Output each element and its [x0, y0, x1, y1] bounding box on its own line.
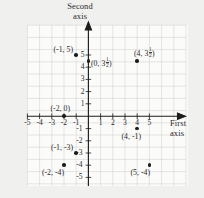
point-label: (-1, -3) — [51, 143, 73, 151]
point-label-tail: ) — [109, 58, 112, 67]
point-label: (5, -4) — [131, 169, 151, 177]
y-tick-label-3: 3 — [75, 75, 85, 83]
data-point — [62, 114, 66, 118]
x-tick-label-5: 5 — [142, 119, 156, 127]
y-tick-label--1: -1 — [73, 125, 83, 133]
y-tick-label-2: 2 — [75, 88, 85, 96]
y-tick-label-1: 1 — [75, 100, 85, 108]
point-label-text: (0, 3 — [91, 58, 105, 67]
coordinate-plane-figure: Second axis First axis -5 -4 -3 -2 -1 1 … — [0, 0, 204, 198]
data-point — [87, 59, 91, 63]
second-axis-title: Second axis — [52, 2, 108, 21]
grid-and-axes-layer — [0, 0, 204, 198]
point-label: (-2, -4) — [42, 169, 64, 177]
point-label: (4, 312) — [134, 47, 155, 59]
point-label: (-1, 5) — [54, 45, 74, 53]
data-point — [74, 151, 78, 155]
point-label-tail: ) — [152, 48, 155, 57]
first-axis-title: First axis — [170, 119, 204, 138]
y-tick-label--2: -2 — [73, 137, 83, 145]
data-point — [148, 163, 152, 167]
point-label: (4, -1) — [122, 132, 142, 140]
point-label-text: (4, 3 — [134, 48, 148, 57]
data-point — [74, 53, 78, 57]
point-label: (0, 312) — [91, 57, 112, 69]
y-tick-label--5: -5 — [73, 173, 83, 181]
y-tick-label-4: 4 — [75, 63, 85, 71]
point-label: (-2, 0) — [51, 104, 71, 112]
data-point — [135, 59, 139, 63]
y-tick-label--4: -4 — [73, 161, 83, 169]
data-point — [62, 163, 66, 167]
